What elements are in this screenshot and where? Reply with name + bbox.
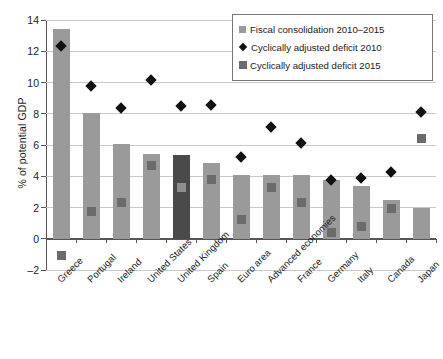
legend-diamond-icon — [239, 43, 247, 51]
x-tick-3 — [166, 239, 167, 243]
marker-deficit-2015-ireland — [117, 198, 126, 207]
x-tick-10 — [376, 239, 377, 243]
marker-deficit-2015-canada — [387, 204, 396, 213]
x-tick-11 — [406, 239, 407, 243]
marker-deficit-2015-advanced-economies — [267, 183, 276, 192]
y-tick-label-4: 4 — [14, 170, 39, 182]
bar-portugal — [83, 113, 100, 239]
y-tick-label-6: 6 — [14, 139, 39, 151]
marker-deficit-2015-united-states — [147, 161, 156, 170]
marker-deficit-2010-advanced-economies — [265, 121, 276, 132]
x-tick-12 — [436, 239, 437, 243]
marker-deficit-2010-italy — [355, 172, 366, 183]
legend-square-light-icon — [239, 26, 246, 33]
marker-deficit-2010-united-states — [145, 74, 156, 85]
marker-deficit-2015-euro-area — [237, 215, 246, 224]
marker-deficit-2010-spain — [205, 99, 216, 110]
y-tick-label--2: –2 — [14, 264, 39, 276]
bar-ireland — [113, 144, 130, 239]
x-tick-4 — [196, 239, 197, 243]
y-tick-label-0: 0 — [14, 233, 39, 245]
marker-deficit-2015-japan — [417, 134, 426, 143]
marker-deficit-2015-italy — [357, 222, 366, 231]
legend-item-fiscal-consolidation: Fiscal consolidation 2010–2015 — [239, 20, 426, 38]
legend-square-dark-icon — [239, 61, 247, 69]
legend-label: Cyclically adjusted deficit 2010 — [251, 42, 382, 53]
y-tick-label-2: 2 — [14, 202, 39, 214]
y-tick-label-10: 10 — [14, 77, 39, 89]
marker-deficit-2015-united-kingdom — [177, 183, 186, 192]
x-tick-9 — [346, 239, 347, 243]
marker-deficit-2010-japan — [415, 107, 426, 118]
marker-deficit-2010-united-kingdom — [175, 100, 186, 111]
y-tick-label-14: 14 — [14, 14, 39, 26]
legend-label: Fiscal consolidation 2010–2015 — [250, 24, 384, 35]
fiscal-consolidation-chart: % of potential GDP –202468101214 GreeceP… — [0, 0, 443, 359]
legend-item-deficit-2015: Cyclically adjusted deficit 2015 — [239, 56, 426, 74]
marker-deficit-2010-euro-area — [235, 151, 246, 162]
bar-euro-area — [233, 175, 250, 239]
y-tick-label-8: 8 — [14, 108, 39, 120]
marker-deficit-2015-greece — [57, 251, 66, 260]
y-tick-label-12: 12 — [14, 45, 39, 57]
bar-united-kingdom — [173, 155, 190, 239]
x-tick-6 — [256, 239, 257, 243]
marker-deficit-2015-spain — [207, 175, 216, 184]
x-tick-7 — [286, 239, 287, 243]
marker-deficit-2010-ireland — [115, 103, 126, 114]
chart-legend: Fiscal consolidation 2010–2015 Cyclicall… — [232, 14, 433, 81]
bar-italy — [353, 186, 370, 239]
marker-deficit-2010-portugal — [85, 81, 96, 92]
marker-deficit-2010-canada — [385, 167, 396, 178]
legend-item-deficit-2010: Cyclically adjusted deficit 2010 — [239, 38, 426, 56]
x-tick-0 — [76, 239, 77, 243]
x-tick-2 — [136, 239, 137, 243]
x-tick-1 — [106, 239, 107, 243]
marker-deficit-2010-france — [295, 137, 306, 148]
marker-deficit-2015-france — [297, 198, 306, 207]
bar-greece — [53, 29, 70, 238]
legend-label: Cyclically adjusted deficit 2015 — [250, 60, 381, 71]
marker-deficit-2015-portugal — [87, 207, 96, 216]
bar-japan — [413, 208, 430, 238]
